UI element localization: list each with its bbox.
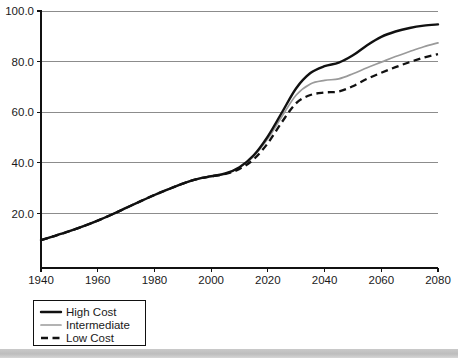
footer-bar [0, 349, 458, 358]
x-tick-label-2040: 2040 [312, 274, 338, 286]
y-axis-labels: 20.040.060.080.0100.0 [5, 5, 34, 220]
x-tick-label-1940: 1940 [28, 274, 54, 286]
x-tick-label-2000: 2000 [198, 274, 224, 286]
y-tick-label-80.0: 80.0 [12, 56, 34, 68]
axis-lines [41, 10, 438, 268]
series-line-low-cost [41, 54, 438, 240]
x-tick-label-2020: 2020 [255, 274, 281, 286]
gridlines [37, 11, 438, 214]
series-paths [41, 24, 438, 240]
x-axis-labels: 19401960198020002020204020602080 [28, 274, 451, 286]
legend-label-intermediate: Intermediate [66, 319, 130, 331]
series-line-intermediate [41, 43, 438, 240]
x-tick-label-1980: 1980 [142, 274, 168, 286]
x-tick-label-2080: 2080 [425, 274, 451, 286]
legend: High Cost Intermediate Low Cost [34, 301, 146, 346]
y-tick-label-40.0: 40.0 [12, 157, 34, 169]
legend-label-low-cost: Low Cost [66, 332, 115, 344]
y-tick-label-60.0: 60.0 [12, 106, 34, 118]
series-line-high-cost [41, 24, 438, 240]
legend-label-high-cost: High Cost [66, 306, 117, 318]
y-tick-label-100.0: 100.0 [5, 5, 34, 17]
y-tick-label-20.0: 20.0 [12, 208, 34, 220]
chart-container: 20.040.060.080.0100.0 194019601980200020… [0, 0, 458, 358]
x-tick-label-1960: 1960 [85, 274, 111, 286]
x-tick-label-2060: 2060 [368, 274, 394, 286]
line-chart: 20.040.060.080.0100.0 194019601980200020… [0, 0, 458, 358]
